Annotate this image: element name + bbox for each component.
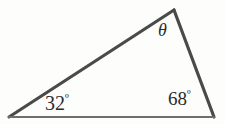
degree-symbol-left: º xyxy=(65,91,69,105)
angle-label-theta: θ xyxy=(158,21,167,39)
triangle-shape xyxy=(0,0,225,124)
degree-symbol-right: º xyxy=(187,88,191,101)
angle-label-right: 68º xyxy=(168,89,191,108)
angle-right-value: 68 xyxy=(168,88,187,109)
triangle-figure: 32º 68º θ xyxy=(0,0,225,124)
angle-left-value: 32 xyxy=(45,92,65,114)
figure-background xyxy=(0,0,225,124)
angle-label-left: 32º xyxy=(45,92,69,113)
